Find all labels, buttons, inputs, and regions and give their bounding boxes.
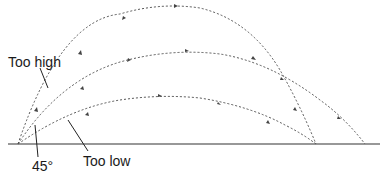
arrow-icon <box>78 50 82 55</box>
label-too-low: Too low <box>83 154 130 168</box>
arrow-icon <box>217 102 221 105</box>
arrow-icon <box>293 107 297 111</box>
arrow-icon <box>266 120 270 124</box>
projectile-diagram <box>0 0 382 179</box>
arrow-icon <box>34 107 38 112</box>
direction-arrows <box>34 4 341 124</box>
arrow-icon <box>127 58 131 62</box>
label-45-degrees: 45° <box>32 159 53 173</box>
trajectory-too-high <box>18 6 316 144</box>
trajectory-45-degree <box>18 52 365 144</box>
arrow-icon <box>280 77 284 80</box>
trajectory-too-low <box>18 96 316 144</box>
arrow-icon <box>174 4 178 8</box>
arrow-icon <box>85 112 89 116</box>
arrow-icon <box>251 56 256 60</box>
leader-too-low <box>68 120 88 151</box>
arrow-icon <box>337 116 341 119</box>
leader-45 <box>35 125 38 157</box>
arrow-icon <box>185 49 189 52</box>
arrow-icon <box>80 86 84 90</box>
leader-too-high <box>40 68 48 88</box>
label-too-high: Too high <box>8 55 61 69</box>
arrow-icon <box>122 16 126 20</box>
